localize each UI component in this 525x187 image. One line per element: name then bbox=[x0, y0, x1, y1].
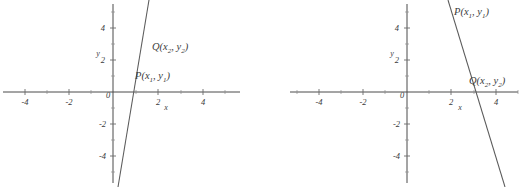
data-line-positive bbox=[118, 0, 149, 187]
point-label-Q: Q(x2, y2) bbox=[152, 41, 189, 55]
y-tick-label-neg4: -4 bbox=[393, 151, 401, 161]
y-tick-label-2: 2 bbox=[101, 55, 106, 65]
x-tick-label-4: 4 bbox=[494, 97, 499, 107]
x-tick-label-neg4: -4 bbox=[315, 97, 323, 107]
x-tick-label-4: 4 bbox=[201, 97, 206, 107]
x-tick-label-neg2: -2 bbox=[65, 97, 73, 107]
x-axis-label: x bbox=[163, 103, 168, 112]
chart-panel-left: -4 -2 0 2 4 4 2 -2 -4 x y P(x1, y1) Q(x2… bbox=[0, 0, 263, 187]
y-tick-label-neg4: -4 bbox=[99, 151, 107, 161]
x-tick-label-2: 2 bbox=[449, 97, 454, 107]
point-label-P: P(x1, y1) bbox=[134, 70, 171, 84]
y-tick-label-4: 4 bbox=[101, 23, 106, 33]
data-line-negative bbox=[448, 0, 505, 187]
y-tick-label-4: 4 bbox=[395, 23, 400, 33]
right-chart-svg: -4 -2 0 2 4 4 2 -2 -4 x y P(x1, y1) Q(x2… bbox=[262, 0, 525, 187]
x-axis-label: x bbox=[457, 103, 462, 112]
chart-panel-right: -4 -2 0 2 4 4 2 -2 -4 x y P(x1, y1) Q(x2… bbox=[262, 0, 525, 187]
x-tick-label-neg4: -4 bbox=[21, 97, 29, 107]
y-tick-label-neg2: -2 bbox=[99, 119, 107, 129]
y-tick-label-2: 2 bbox=[395, 55, 400, 65]
y-axis-label: y bbox=[389, 49, 394, 58]
y-tick-label-neg2: -2 bbox=[393, 119, 401, 129]
x-tick-label-neg2: -2 bbox=[359, 97, 367, 107]
point-label-P: P(x1, y1) bbox=[453, 6, 490, 20]
y-axis-label: y bbox=[95, 49, 100, 58]
x-tick-label-2: 2 bbox=[156, 97, 161, 107]
left-chart-svg: -4 -2 0 2 4 4 2 -2 -4 x y P(x1, y1) Q(x2… bbox=[0, 0, 263, 187]
figure-pair: -4 -2 0 2 4 4 2 -2 -4 x y P(x1, y1) Q(x2… bbox=[0, 0, 525, 187]
